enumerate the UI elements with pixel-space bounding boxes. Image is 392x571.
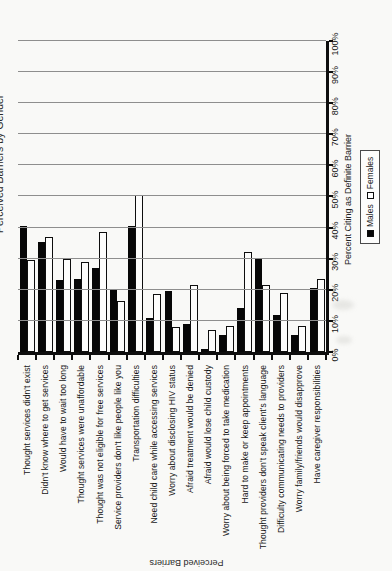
bar-row — [18, 41, 36, 352]
rotated-chart-sheet: Perceived Barriers by Gender Perceived B… — [0, 0, 392, 571]
bar-males — [74, 279, 81, 352]
bar-males — [146, 318, 153, 352]
bar-row — [109, 41, 127, 352]
category-label: Hard to make or keep appointments — [236, 360, 254, 571]
value-tick-label: 60% — [330, 159, 340, 177]
bar-row — [72, 41, 90, 352]
gridline-100 — [18, 40, 326, 41]
bar-males — [291, 335, 298, 352]
bar-males — [110, 290, 117, 352]
category-tick — [108, 355, 110, 360]
category-label: Worry about disclosing HIV status — [163, 360, 181, 571]
category-tick — [307, 355, 309, 360]
category-tick — [180, 355, 182, 360]
category-tick — [198, 355, 200, 360]
category-tick — [289, 355, 291, 360]
scanned-page: Perceived Barriers by Gender Perceived B… — [0, 0, 392, 571]
legend-item-males: Males — [365, 204, 375, 237]
value-tick-label: 50% — [330, 190, 340, 208]
category-tick — [271, 355, 273, 360]
category-label: Thought services were unaffordable — [72, 360, 90, 571]
bar-females — [45, 237, 53, 352]
category-label: Worry family/friends would disapprove — [290, 360, 308, 571]
bar-females — [190, 285, 198, 352]
category-label: Thought was not eligible for free servic… — [91, 360, 109, 571]
bar-males — [237, 308, 244, 352]
value-tick-label: 80% — [330, 97, 340, 115]
bar-males — [201, 349, 208, 352]
bar-males — [255, 259, 262, 352]
category-tick — [17, 355, 19, 360]
bar-row — [272, 41, 290, 352]
bar-females — [117, 301, 125, 352]
scan-smudge — [336, 336, 352, 344]
gridline-10 — [18, 320, 326, 321]
scan-smudge — [332, 300, 354, 310]
plot-area — [18, 41, 329, 355]
category-label: Afraid would lose child custody — [199, 360, 217, 571]
category-tick — [53, 355, 55, 360]
value-tick-label: 30% — [330, 253, 340, 271]
bar-females — [27, 260, 35, 352]
chart-title-clipped: Perceived Barriers by Gender — [0, 13, 5, 233]
category-label: Didn't know where to get services — [36, 360, 54, 571]
bar-row — [308, 41, 326, 352]
females-swatch-icon — [367, 192, 374, 199]
value-tick-label: 100% — [330, 32, 340, 55]
bar-row — [127, 41, 145, 352]
bar-females — [298, 326, 306, 352]
bar-females — [244, 252, 252, 352]
legend-item-females: Females — [365, 157, 375, 200]
bar-females — [135, 195, 143, 352]
bar-row — [163, 41, 181, 352]
bar-females — [63, 259, 71, 352]
gridline-40 — [18, 227, 326, 228]
bar-row — [254, 41, 272, 352]
gridline-60 — [18, 164, 326, 165]
category-tick — [234, 355, 236, 360]
bar-males — [92, 268, 99, 352]
category-label: Have caregiver responsibilities — [308, 360, 326, 571]
category-tick — [35, 355, 37, 360]
bar-females — [317, 279, 325, 352]
category-label: Transportation difficulties — [127, 360, 145, 571]
gridline-50 — [18, 196, 326, 197]
gridline-30 — [18, 258, 326, 259]
gridline-70 — [18, 133, 326, 134]
category-label: Afraid treatment would be denied — [181, 360, 199, 571]
bar-row — [181, 41, 199, 352]
gridline-90 — [18, 71, 326, 72]
bar-females — [262, 285, 270, 352]
category-label: Worry about being forced to take medicat… — [217, 360, 235, 571]
bar-males — [56, 280, 63, 352]
value-tick-label: 40% — [330, 222, 340, 240]
category-label: Would have to wait too long — [54, 360, 72, 571]
bar-row — [236, 41, 254, 352]
legend-label-males: Males — [365, 204, 375, 227]
value-tick-label: 70% — [330, 128, 340, 146]
bar-males — [219, 335, 226, 352]
bar-row — [199, 41, 217, 352]
category-labels: Thought services didn't existDidn't know… — [18, 360, 326, 571]
category-tick — [71, 355, 73, 360]
bar-females — [280, 293, 288, 352]
bar-row — [290, 41, 308, 352]
bar-females — [226, 326, 234, 352]
category-label: Thought services didn't exist — [18, 360, 36, 571]
category-label: Difficulty communicating needs to provid… — [272, 360, 290, 571]
bar-row — [54, 41, 72, 352]
legend: Males Females — [360, 150, 380, 244]
category-label: Thought providers don't speak client's l… — [254, 360, 272, 571]
bars-container — [18, 41, 326, 352]
category-tick — [144, 355, 146, 360]
bar-females — [153, 294, 161, 352]
bar-females — [81, 262, 89, 352]
bar-males — [183, 324, 190, 352]
category-tick — [89, 355, 91, 360]
value-tick-label: 10% — [330, 315, 340, 333]
value-tick-label: 20% — [330, 284, 340, 302]
category-tick — [253, 355, 255, 360]
bar-row — [36, 41, 54, 352]
bar-row — [91, 41, 109, 352]
bar-females — [172, 327, 180, 352]
